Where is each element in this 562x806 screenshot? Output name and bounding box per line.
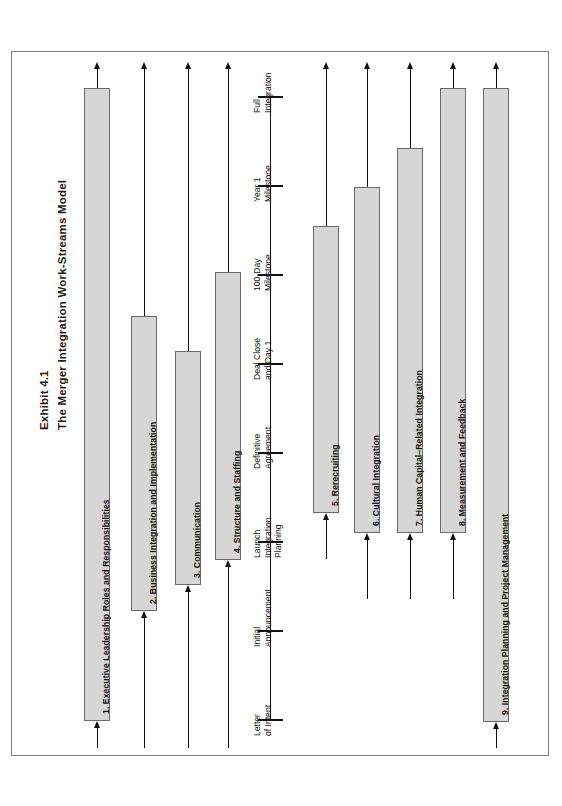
stream-tail [410, 539, 411, 599]
tick-label-line1: Definitive [252, 434, 263, 469]
exhibit-page: Exhibit 4.1 The Merger Integration Work-… [0, 0, 562, 806]
tick-label-line2: of Intent [263, 705, 274, 736]
stream-tail [144, 617, 145, 748]
stream-label: 9. Integration Planning and Project Mana… [500, 514, 510, 715]
stream-tail [97, 727, 98, 748]
arrow-head-icon [364, 533, 370, 540]
tick-label-letter-of-intent: Letter of Intent [252, 705, 273, 736]
stream-label: 8. Measurement and Feedback [457, 399, 467, 526]
arrow-head-icon [323, 513, 329, 520]
arrow-head-icon [225, 560, 231, 567]
stream-tail [228, 566, 229, 748]
stream-tail [188, 591, 189, 748]
tick-label-line2: Milestone [263, 165, 274, 202]
stream-stem [188, 68, 189, 353]
tick-label-line1: Initial [252, 627, 263, 647]
stream-label: 3. Communication [192, 502, 202, 578]
stream-label: 5. Rerecruiting [330, 444, 340, 506]
stream-label: 7. Human Capital–Related Integration [414, 370, 424, 526]
arrow-head-icon [493, 722, 499, 729]
arrow-head-icon [185, 585, 191, 592]
stream-label: 2. Business Integration and Implementati… [148, 422, 158, 604]
tick-label-line3: Planning [273, 525, 284, 558]
tick-label-line2: Milestone [263, 254, 274, 291]
stream-stem [144, 68, 145, 318]
tick-label-line2: Integration [263, 72, 274, 113]
stream-stem [453, 68, 454, 90]
tick-label-line1: 100-Day [252, 259, 263, 291]
stream-stem [228, 68, 229, 274]
tick-label-line1: Deal Close [252, 338, 263, 380]
tick-label-line2: and Day 1 [263, 341, 274, 380]
stream-tail [367, 539, 368, 599]
stream-tail [326, 519, 327, 559]
stream-label: 6. Cultural Integration [371, 435, 381, 526]
arrow-head-icon [94, 721, 100, 728]
stream-tail [453, 539, 454, 599]
page-title: The Merger Integration Work-Streams Mode… [56, 180, 68, 430]
arrow-head-icon [141, 611, 147, 618]
tick-label-line1: Letter [252, 705, 263, 736]
tick-label-line1: Launch [252, 530, 263, 558]
stream-tail [496, 728, 497, 748]
tick-label-line1: Full [252, 99, 263, 113]
tick-label-line2: Announcement [263, 589, 274, 647]
stream-label: 1. Executive Leadership Roles and Respon… [101, 499, 111, 714]
stream-stem [326, 68, 327, 228]
exhibit-number-label: Exhibit 4.1 [38, 370, 50, 430]
stream-label: 4. Structure and Staffing [232, 451, 242, 553]
arrow-head-icon [407, 533, 413, 540]
tick-label-line2: Integration [263, 517, 274, 558]
arrow-head-icon [450, 533, 456, 540]
tick-label-line1: Year 1 [252, 177, 263, 202]
stream-stem [410, 68, 411, 150]
stream-stem [496, 68, 497, 90]
stream-stem [367, 68, 368, 189]
tick-label-line2: Agreement [263, 427, 274, 469]
